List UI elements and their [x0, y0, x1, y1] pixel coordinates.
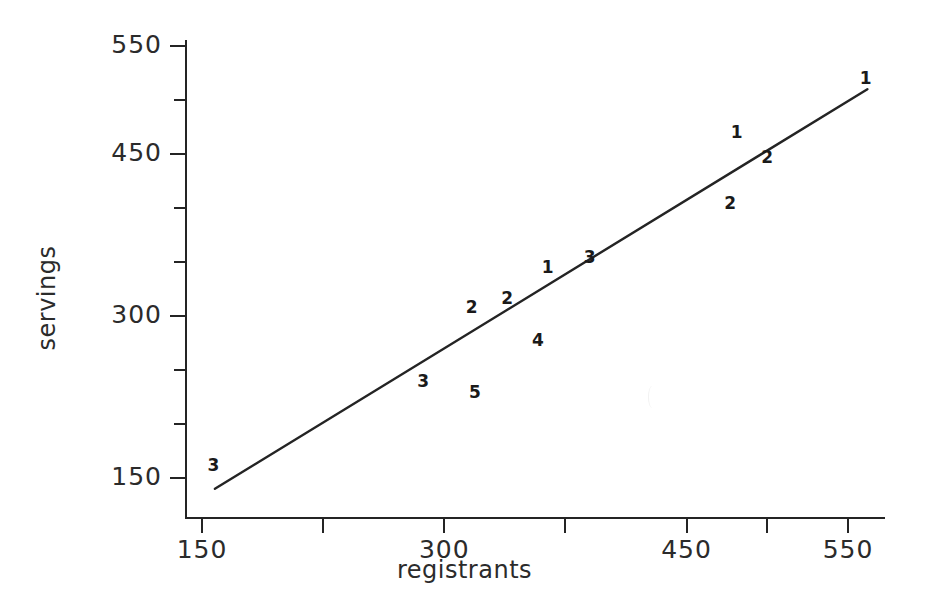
y-axis-tick [170, 477, 185, 479]
x-axis-tick [201, 519, 203, 533]
data-point-count-label: 2 [720, 195, 740, 212]
scatter-plot-figure: 150300450550550450300150 335224131221 re… [0, 0, 929, 606]
y-axis-minor-tick [174, 261, 185, 263]
x-axis-tick [847, 519, 849, 533]
data-point-count-label: 3 [203, 457, 223, 474]
y-axis-title: servings [33, 208, 61, 388]
x-axis-minor-tick [766, 519, 768, 533]
y-axis-tick [170, 45, 185, 47]
y-axis-tick-label: 450 [72, 138, 162, 167]
y-axis-line [185, 40, 187, 519]
x-axis-minor-tick [322, 519, 324, 533]
x-axis-line [185, 517, 885, 519]
y-axis-tick-label: 150 [72, 462, 162, 491]
data-point-count-label: 2 [497, 290, 517, 307]
data-point-count-label: 5 [465, 384, 485, 401]
data-point-count-label: 2 [462, 299, 482, 316]
y-axis-minor-tick [174, 99, 185, 101]
y-axis-tick-label: 300 [72, 300, 162, 329]
y-axis-minor-tick [174, 423, 185, 425]
x-axis-tick [443, 519, 445, 533]
y-axis-tick [170, 315, 185, 317]
y-axis-tick [170, 153, 185, 155]
x-axis-title: registrants [0, 556, 929, 584]
data-point-count-label: 2 [757, 149, 777, 166]
y-axis-tick-label: 550 [72, 30, 162, 59]
x-axis-minor-tick [564, 519, 566, 533]
x-axis-tick [686, 519, 688, 533]
data-point-count-label: 3 [413, 373, 433, 390]
y-axis-minor-tick [174, 207, 185, 209]
scan-artifact [648, 386, 656, 408]
data-point-count-label: 1 [538, 259, 558, 276]
data-point-count-label: 1 [727, 124, 747, 141]
data-point-count-label: 4 [528, 332, 548, 349]
data-point-count-label: 3 [580, 249, 600, 266]
y-axis-minor-tick [174, 369, 185, 371]
data-point-count-label: 1 [856, 70, 876, 87]
